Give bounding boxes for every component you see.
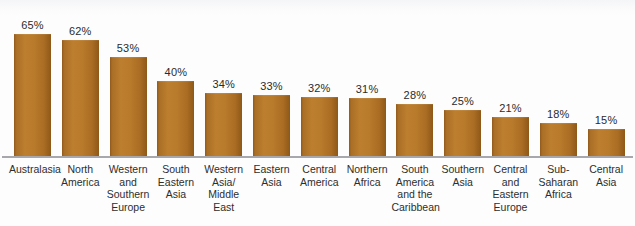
bar-value-label: 18% xyxy=(534,108,583,120)
x-axis-baseline xyxy=(2,156,633,158)
x-axis-category-labels: AustralasiaNorthAmericaWesternandSouther… xyxy=(14,163,628,223)
category-label-line: Central xyxy=(296,163,343,176)
bar xyxy=(301,97,338,157)
bar-value-label: 65% xyxy=(8,19,57,31)
bar-column: 15% xyxy=(588,0,625,157)
category-label-line: Asia/ xyxy=(200,176,247,189)
category-label-line: Europe xyxy=(105,201,152,214)
category-label-line: Europe xyxy=(487,201,534,214)
category-label-line: and xyxy=(487,176,534,189)
bar-column: 53% xyxy=(110,0,147,157)
bar-value-label: 32% xyxy=(295,82,344,94)
category-label-line: Central xyxy=(487,163,534,176)
category-label: WesternAsia/MiddleEast xyxy=(200,163,247,213)
category-label-line: Eastern xyxy=(248,163,295,176)
category-label-line: Western xyxy=(200,163,247,176)
bar-column: 21% xyxy=(492,0,529,157)
bar-column: 40% xyxy=(157,0,194,157)
bar-value-label: 25% xyxy=(438,95,487,107)
category-label-line: Caribbean xyxy=(391,201,438,214)
category-label-line: America xyxy=(391,176,438,189)
bar-column: 33% xyxy=(253,0,290,157)
category-label-line: South xyxy=(152,163,199,176)
category-label: CentralAmerica xyxy=(296,163,343,188)
bar-value-label: 31% xyxy=(343,83,392,95)
category-label: CentralAsia xyxy=(583,163,630,188)
category-label-line: Southern xyxy=(439,163,486,176)
bar xyxy=(396,104,433,157)
category-label-line: Southern xyxy=(105,188,152,201)
bar xyxy=(62,40,99,157)
category-label-line: America xyxy=(57,176,104,189)
bar-value-label: 53% xyxy=(104,42,153,54)
bar xyxy=(14,34,51,157)
category-label: Australasia xyxy=(9,163,56,176)
category-label-line: Africa xyxy=(344,176,391,189)
category-label-line: Eastern xyxy=(152,176,199,189)
category-label: SouthAmericaand theCaribbean xyxy=(391,163,438,213)
category-label: EasternAsia xyxy=(248,163,295,188)
bar-column: 65% xyxy=(14,0,51,157)
category-label-line: Sub- xyxy=(535,163,582,176)
bar-value-label: 40% xyxy=(151,66,200,78)
bar xyxy=(253,95,290,157)
plot-area: 65%62%53%40%34%33%32%31%28%25%21%18%15% xyxy=(0,0,635,158)
category-label: NorthAmerica xyxy=(57,163,104,188)
bar-series: 65%62%53%40%34%33%32%31%28%25%21%18%15% xyxy=(14,0,628,157)
category-label-line: Eastern xyxy=(487,188,534,201)
category-label-line: Northern xyxy=(344,163,391,176)
bar xyxy=(444,110,481,157)
bar xyxy=(110,57,147,157)
bar-column: 31% xyxy=(349,0,386,157)
bar xyxy=(205,93,242,157)
category-label: WesternandSouthernEurope xyxy=(105,163,152,213)
category-label-line: Asia xyxy=(248,176,295,189)
category-label: SouthEasternAsia xyxy=(152,163,199,201)
category-label-line: and xyxy=(105,176,152,189)
category-label-line: North xyxy=(57,163,104,176)
bar xyxy=(157,81,194,157)
bar-column: 28% xyxy=(396,0,433,157)
bar-column: 25% xyxy=(444,0,481,157)
category-label-line: South xyxy=(391,163,438,176)
bar xyxy=(492,117,529,157)
category-label: Sub-SaharanAfrica xyxy=(535,163,582,201)
category-label: NorthernAfrica xyxy=(344,163,391,188)
category-label: SouthernAsia xyxy=(439,163,486,188)
bar-column: 32% xyxy=(301,0,338,157)
bar-chart: 65%62%53%40%34%33%32%31%28%25%21%18%15% … xyxy=(0,0,635,226)
category-label-line: America xyxy=(296,176,343,189)
category-label-line: Central xyxy=(583,163,630,176)
category-label-line: Asia xyxy=(152,188,199,201)
category-label-line: Asia xyxy=(439,176,486,189)
category-label-line: East xyxy=(200,201,247,214)
bar-column: 18% xyxy=(540,0,577,157)
category-label-line: and the xyxy=(391,188,438,201)
bar-value-label: 15% xyxy=(582,114,631,126)
bar-value-label: 33% xyxy=(247,80,296,92)
category-label-line: Africa xyxy=(535,188,582,201)
category-label-line: Western xyxy=(105,163,152,176)
bar-value-label: 21% xyxy=(486,102,535,114)
bar xyxy=(349,98,386,157)
bar-value-label: 34% xyxy=(199,78,248,90)
bar-value-label: 62% xyxy=(56,25,105,37)
bar-column: 62% xyxy=(62,0,99,157)
bar xyxy=(588,129,625,157)
bar xyxy=(540,123,577,157)
category-label-line: Australasia xyxy=(9,163,56,176)
bar-column: 34% xyxy=(205,0,242,157)
category-label: CentralandEasternEurope xyxy=(487,163,534,213)
category-label-line: Saharan xyxy=(535,176,582,189)
category-label-line: Asia xyxy=(583,176,630,189)
category-label-line: Middle xyxy=(200,188,247,201)
bar-value-label: 28% xyxy=(390,89,439,101)
